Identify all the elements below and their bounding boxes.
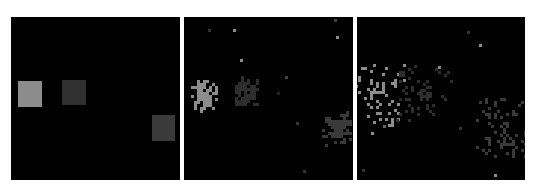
noise-speckle — [383, 125, 386, 128]
noise-speckle — [362, 169, 365, 172]
noise-speckle — [208, 29, 211, 32]
noise-speckle — [371, 132, 374, 135]
noise-speckle — [336, 36, 339, 39]
noise-speckle — [233, 29, 236, 32]
noise-speckle — [296, 122, 299, 125]
noise-speckle — [467, 31, 470, 34]
noise-speckle — [240, 59, 243, 62]
noise-speckle — [334, 19, 337, 22]
noise-speckle — [459, 127, 462, 130]
noise-speckle — [494, 174, 497, 177]
square-1 — [18, 81, 42, 107]
image-panel-heavily-diffused: Heavily diffused — [357, 17, 525, 180]
image-panel-original: Original — [11, 17, 180, 180]
noise-speckle — [277, 92, 280, 95]
noise-speckle — [438, 66, 441, 69]
image-panel-partially-diffused: Partially diffused — [184, 17, 353, 180]
noise-speckle — [303, 170, 306, 173]
noise-speckle — [479, 44, 482, 47]
noise-speckle — [285, 76, 288, 79]
square-3 — [152, 115, 175, 141]
square-2 — [62, 80, 86, 105]
